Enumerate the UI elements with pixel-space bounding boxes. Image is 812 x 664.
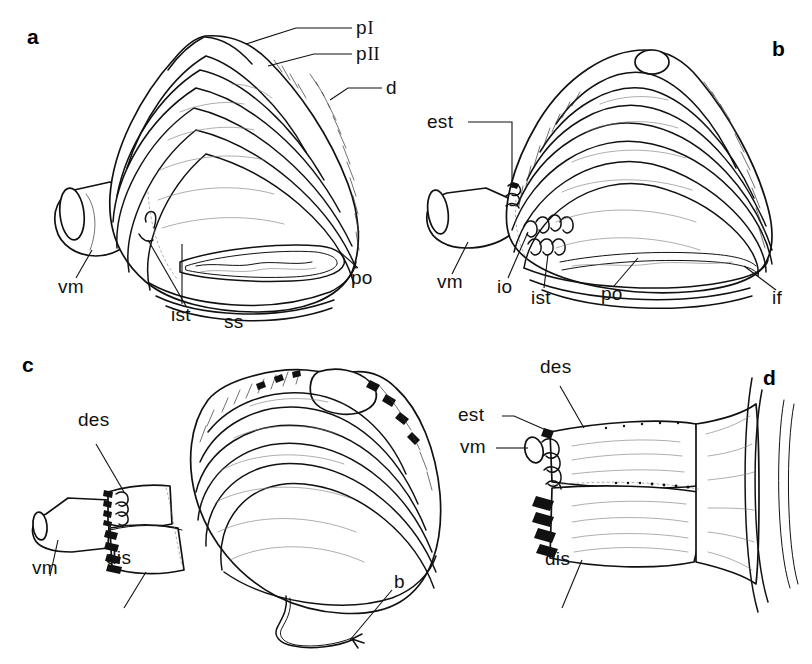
leader-vm-b: [452, 242, 468, 274]
label-d-a: d: [386, 78, 397, 97]
label-vm-a: vm: [58, 277, 84, 296]
figure-canvas: .s { fill:none; stroke:#111; stroke-widt…: [0, 0, 812, 664]
label-dis-c: dis: [106, 548, 131, 567]
label-p-one-roman: I: [368, 18, 374, 38]
panel-d-artwork: [496, 378, 798, 612]
leader-b-c: [350, 590, 392, 640]
label-des-d: des: [540, 357, 572, 376]
leader-ist-a: [148, 240, 186, 306]
leader-io-b: [508, 232, 528, 278]
label-vm-d: vm: [460, 437, 486, 456]
label-ist-a: ist: [171, 305, 191, 324]
label-p-one-text: p: [356, 17, 368, 38]
label-io-b: io: [497, 277, 512, 296]
label-p-one: pI: [356, 18, 374, 37]
panel-letter-d: d: [763, 367, 776, 388]
leader-po-a: [340, 252, 358, 268]
leader-des-d: [560, 386, 584, 428]
panel-letter-c: c: [22, 354, 34, 375]
leader-d: [330, 88, 382, 100]
label-vm-b: vm: [437, 272, 463, 291]
label-p-two-text: p: [356, 43, 368, 64]
label-po-a: po: [351, 268, 373, 287]
leader-dis-c: [124, 572, 146, 608]
leader-po-b: [614, 258, 638, 286]
leader-p1: [246, 28, 352, 44]
leader-est-d: [502, 416, 546, 430]
leader-est-b: [468, 122, 512, 188]
label-dis-d: dis: [545, 549, 570, 568]
label-des-c: des: [78, 410, 110, 429]
label-ist-b: ist: [531, 288, 551, 307]
leader-ist-b: [544, 254, 548, 288]
label-if-b: if: [772, 288, 782, 307]
panel-a-artwork: [55, 28, 382, 321]
leader-vm-a: [76, 250, 92, 278]
panel-letter-a: a: [27, 26, 39, 47]
panel-letter-b: b: [772, 38, 785, 59]
label-po-b: po: [601, 284, 623, 303]
label-p-two-roman: II: [368, 44, 380, 64]
label-est-b: est: [427, 112, 453, 131]
label-vm-c: vm: [32, 558, 58, 577]
leader-des-c: [96, 444, 124, 492]
label-p-two: pII: [356, 44, 380, 63]
panel-b-artwork: [425, 50, 776, 308]
label-b-c: b: [394, 572, 405, 591]
label-ss-a: ss: [224, 312, 244, 331]
leader-p2: [268, 54, 352, 66]
label-est-d: est: [458, 405, 484, 424]
